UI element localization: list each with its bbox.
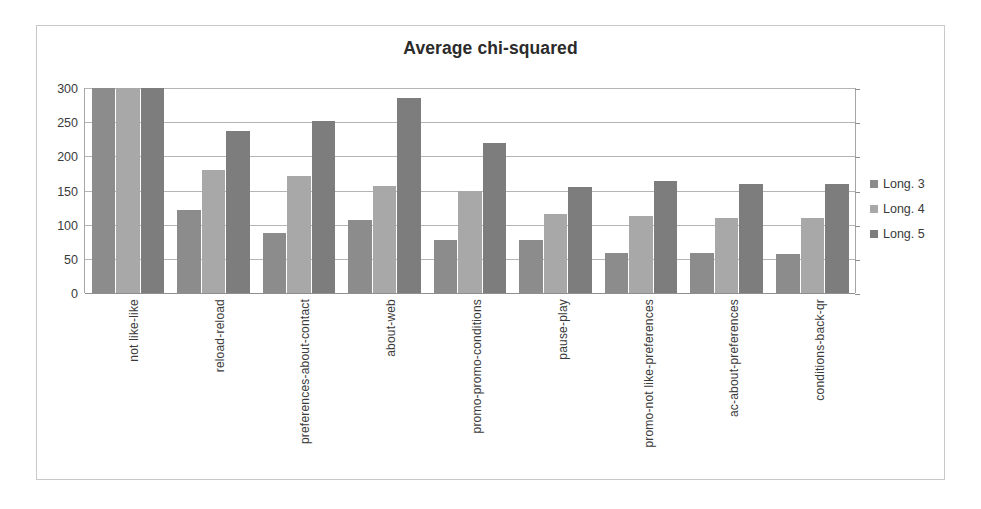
bar (825, 184, 849, 293)
bar-group (85, 88, 171, 293)
y-axis-tick-label: 50 (64, 253, 78, 267)
x-axis-tick-label: promo-promo-conditions (470, 299, 484, 433)
bar (92, 88, 116, 293)
x-axis-tick-label: promo-not like-preferences (642, 299, 656, 448)
y-axis-tick-label: 200 (57, 150, 78, 164)
x-axis-tick-label: reload-reload (213, 299, 227, 372)
bar (715, 218, 739, 293)
bar (202, 170, 226, 293)
y-axis-tick-mark (855, 192, 860, 193)
legend-swatch-icon (870, 180, 878, 188)
legend-item: Long. 4 (870, 196, 925, 221)
chart-legend: Long. 3Long. 4Long. 5 (870, 171, 925, 246)
bars-layer (85, 88, 855, 293)
bar (690, 253, 714, 293)
bar (483, 143, 507, 293)
chart-title: Average chi-squared (37, 38, 944, 59)
y-axis-tick-label: 250 (57, 116, 78, 130)
legend-swatch-icon (870, 205, 878, 213)
bar-group (684, 88, 770, 293)
bar (458, 191, 482, 293)
bar-group (427, 88, 513, 293)
y-axis-tick-label: 100 (57, 219, 78, 233)
legend-item: Long. 3 (870, 171, 925, 196)
x-axis-tick-label: about-web (384, 299, 398, 357)
y-axis-tick-mark (855, 226, 860, 227)
bar (263, 233, 287, 293)
y-axis-tick-label: 300 (57, 82, 78, 96)
legend-item: Long. 5 (870, 221, 925, 246)
bar (776, 254, 800, 293)
bar (629, 216, 653, 293)
y-axis-tick-mark (855, 260, 860, 261)
x-axis-label-cell: promo-not like-preferences (599, 295, 685, 480)
bar (519, 240, 543, 293)
x-axis-tick-label: pause-play (556, 299, 570, 360)
x-axis-label-cell: promo-promo-conditions (427, 295, 513, 480)
x-axis-label-cell: conditions-back-qr (770, 295, 856, 480)
bar-group (513, 88, 599, 293)
bar-group (342, 88, 428, 293)
x-axis-tick-label: not like-like (127, 299, 141, 362)
bar (348, 220, 372, 293)
x-axis-label-cell: reload-reload (170, 295, 256, 480)
y-axis-tick-mark (855, 157, 860, 158)
y-axis-tick-mark (855, 123, 860, 124)
x-axis-label-cell: pause-play (513, 295, 599, 480)
y-axis-tick-label: 150 (57, 185, 78, 199)
legend-label: Long. 5 (883, 227, 925, 241)
x-axis-tick-label: ac-about-preferences (727, 299, 741, 417)
x-axis-label-cell: ac-about-preferences (684, 295, 770, 480)
gridline: 0 (85, 293, 855, 294)
bar (141, 88, 165, 293)
bar (568, 187, 592, 293)
legend-label: Long. 3 (883, 177, 925, 191)
bar (373, 186, 397, 293)
bar-group (770, 88, 856, 293)
bar (801, 218, 825, 293)
x-axis-tick-label: preferences-about-contact (298, 299, 312, 444)
bar-group (256, 88, 342, 293)
bar (739, 184, 763, 293)
bar (434, 240, 458, 293)
bar (544, 214, 568, 293)
legend-swatch-icon (870, 230, 878, 238)
x-axis-tick-label: conditions-back-qr (813, 299, 827, 401)
bar (116, 88, 140, 293)
x-axis-labels: not like-likereload-reloadpreferences-ab… (84, 295, 856, 480)
bar-group (171, 88, 257, 293)
legend-label: Long. 4 (883, 202, 925, 216)
bar (605, 253, 629, 293)
x-axis-label-cell: about-web (341, 295, 427, 480)
y-axis-tick-label: 0 (71, 287, 78, 301)
bar (397, 98, 421, 293)
chart-frame: Average chi-squared 050100150200250300 n… (36, 25, 945, 480)
plot-area: 050100150200250300 (84, 88, 856, 293)
plot-wrapper: 050100150200250300 (84, 88, 856, 293)
x-axis-label-cell: not like-like (84, 295, 170, 480)
bar (177, 210, 201, 293)
bar (226, 131, 250, 293)
bar (654, 181, 678, 293)
bar (287, 176, 311, 293)
bar-group (598, 88, 684, 293)
x-axis-label-cell: preferences-about-contact (256, 295, 342, 480)
bar (312, 121, 336, 293)
y-axis-tick-mark (855, 89, 860, 90)
